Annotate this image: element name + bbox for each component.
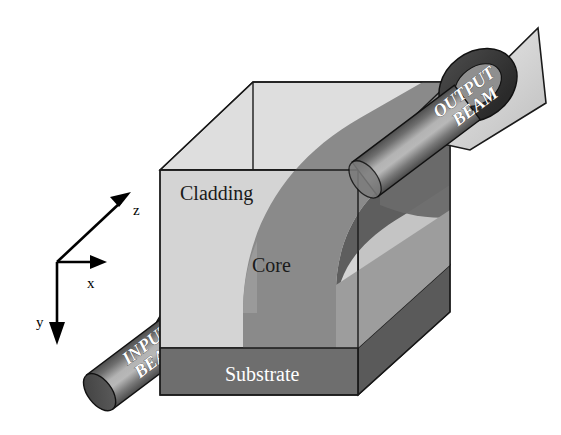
core-slab-front (243, 313, 336, 348)
y-axis-label: y (36, 314, 44, 330)
substrate-label: Substrate (225, 363, 300, 385)
y-axis-arrowhead (49, 322, 65, 345)
x-axis-label: x (87, 275, 95, 291)
z-axis-arrowhead (110, 192, 131, 207)
x-axis-arrowhead (90, 255, 107, 269)
diagram-canvas: INPUT BEAM (0, 0, 561, 435)
cladding-label: Cladding (180, 182, 253, 205)
z-axis-label: z (133, 202, 140, 218)
z-axis-line (57, 202, 121, 262)
core-label: Core (252, 254, 291, 276)
waveguide-diagram: INPUT BEAM (0, 0, 561, 435)
coordinate-axes (49, 192, 131, 345)
